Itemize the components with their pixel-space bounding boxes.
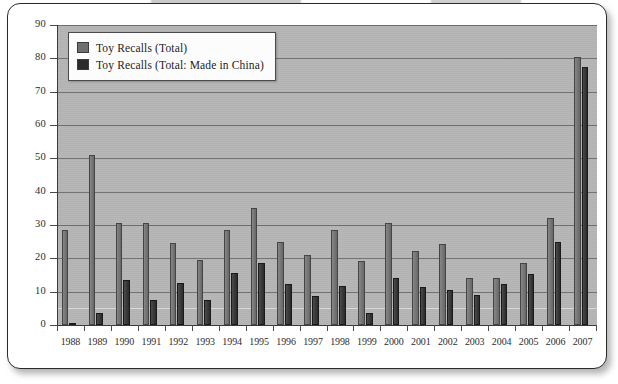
bar-2007-total[interactable] xyxy=(574,57,581,325)
bar-1991-china[interactable] xyxy=(150,300,157,325)
bar-1992-china[interactable] xyxy=(177,283,184,325)
bar-1999-total[interactable] xyxy=(358,261,365,325)
y-tick-40 xyxy=(50,192,57,193)
bar-1990-china[interactable] xyxy=(123,280,130,325)
x-tick-1998 xyxy=(327,325,328,331)
gridline-60 xyxy=(58,125,597,126)
x-tick-1989 xyxy=(84,325,85,331)
x-tick-2006 xyxy=(542,325,543,331)
y-tick-label-10: 10 xyxy=(12,285,46,296)
y-tick-label-70: 70 xyxy=(12,85,46,96)
x-tick-1988 xyxy=(57,325,58,331)
gridline-faint xyxy=(58,308,597,309)
bar-2007-china[interactable] xyxy=(582,67,589,325)
y-tick-90 xyxy=(50,25,57,26)
bar-2005-china[interactable] xyxy=(528,274,535,325)
legend-item-total[interactable]: Toy Recalls (Total) xyxy=(77,39,264,56)
bar-1994-china[interactable] xyxy=(231,273,238,325)
bar-1993-china[interactable] xyxy=(204,300,211,325)
legend-label-total: Toy Recalls (Total) xyxy=(96,42,187,54)
y-tick-label-90: 90 xyxy=(12,18,46,29)
bar-2006-total[interactable] xyxy=(547,218,554,325)
bar-1996-china[interactable] xyxy=(285,284,292,325)
gridline-90 xyxy=(58,25,597,26)
x-tick-2004 xyxy=(488,325,489,331)
gridline-10 xyxy=(58,292,597,293)
y-tick-label-30: 30 xyxy=(12,218,46,229)
bar-2004-total[interactable] xyxy=(493,278,500,325)
y-tick-30 xyxy=(50,225,57,226)
x-tick-2001 xyxy=(407,325,408,331)
bar-1996-total[interactable] xyxy=(277,242,284,325)
y-tick-label-0: 0 xyxy=(12,318,46,329)
gridline-30 xyxy=(58,225,597,226)
y-tick-label-20: 20 xyxy=(12,251,46,262)
y-tick-50 xyxy=(50,158,57,159)
y-tick-80 xyxy=(50,58,57,59)
y-tick-20 xyxy=(50,258,57,259)
x-tick-1993 xyxy=(192,325,193,331)
bar-2006-china[interactable] xyxy=(555,242,562,325)
x-tick-label-2007: 2007 xyxy=(563,336,603,347)
x-tick-end xyxy=(596,325,597,331)
x-tick-2003 xyxy=(461,325,462,331)
x-tick-1992 xyxy=(165,325,166,331)
x-tick-1997 xyxy=(300,325,301,331)
x-tick-2002 xyxy=(434,325,435,331)
bar-1995-china[interactable] xyxy=(258,263,265,325)
bar-2002-total[interactable] xyxy=(439,244,446,325)
legend-swatch-total xyxy=(77,42,89,53)
gridline-40 xyxy=(58,192,597,193)
bar-1994-total[interactable] xyxy=(224,230,231,325)
y-tick-label-40: 40 xyxy=(12,185,46,196)
y-tick-label-80: 80 xyxy=(12,51,46,62)
legend-label-china: Toy Recalls (Total: Made in China) xyxy=(96,59,264,71)
bar-1989-china[interactable] xyxy=(96,313,103,325)
bar-2000-total[interactable] xyxy=(385,223,392,325)
bar-2004-china[interactable] xyxy=(501,284,508,325)
y-tick-label-60: 60 xyxy=(12,118,46,129)
x-tick-2007 xyxy=(569,325,570,331)
bar-1990-total[interactable] xyxy=(116,223,123,325)
bar-1998-total[interactable] xyxy=(331,230,338,325)
bar-1992-total[interactable] xyxy=(170,243,177,325)
bar-1988-total[interactable] xyxy=(62,230,69,325)
bar-2001-total[interactable] xyxy=(412,251,419,325)
bar-1993-total[interactable] xyxy=(197,260,204,325)
bar-1988-china[interactable] xyxy=(69,323,76,325)
bar-2003-china[interactable] xyxy=(474,295,481,325)
bar-1997-china[interactable] xyxy=(312,296,319,325)
y-tick-60 xyxy=(50,125,57,126)
bar-1997-total[interactable] xyxy=(304,255,311,325)
x-tick-1991 xyxy=(138,325,139,331)
bar-2001-china[interactable] xyxy=(420,287,427,325)
bar-2000-china[interactable] xyxy=(393,278,400,325)
y-tick-10 xyxy=(50,292,57,293)
y-tick-70 xyxy=(50,92,57,93)
y-tick-0 xyxy=(50,325,57,326)
bar-1999-china[interactable] xyxy=(366,313,373,325)
x-tick-1996 xyxy=(273,325,274,331)
legend-item-china[interactable]: Toy Recalls (Total: Made in China) xyxy=(77,56,264,73)
bar-1991-total[interactable] xyxy=(143,223,150,325)
x-tick-2005 xyxy=(515,325,516,331)
bar-1989-total[interactable] xyxy=(89,155,96,325)
x-tick-2000 xyxy=(380,325,381,331)
x-tick-1995 xyxy=(246,325,247,331)
bar-1998-china[interactable] xyxy=(339,286,346,325)
gridline-70 xyxy=(58,92,597,93)
gridline-20 xyxy=(58,258,597,259)
bar-2002-china[interactable] xyxy=(447,290,454,325)
bar-2005-total[interactable] xyxy=(520,263,527,325)
chart-legend: Toy Recalls (Total) Toy Recalls (Total: … xyxy=(68,32,276,81)
x-tick-1994 xyxy=(219,325,220,331)
bar-1995-total[interactable] xyxy=(251,208,258,325)
gridline-50 xyxy=(58,158,597,159)
bar-2003-total[interactable] xyxy=(466,278,473,325)
bar-chart: 0102030405060708090 19881989199019911992… xyxy=(0,0,618,384)
x-tick-1999 xyxy=(353,325,354,331)
y-tick-label-50: 50 xyxy=(12,151,46,162)
legend-swatch-china xyxy=(77,59,89,70)
x-tick-1990 xyxy=(111,325,112,331)
